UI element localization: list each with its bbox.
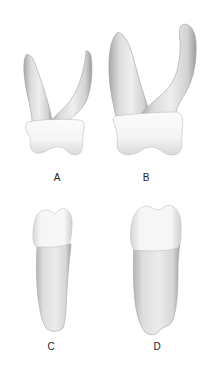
panel-label-a: A bbox=[54, 173, 61, 183]
tooth-d bbox=[130, 205, 181, 335]
tooth-illustration-figure: A B C D bbox=[0, 0, 209, 365]
panel-label-c: C bbox=[47, 342, 54, 352]
panel-label-d: D bbox=[153, 342, 160, 352]
tooth-b bbox=[109, 24, 196, 155]
tooth-c bbox=[33, 208, 72, 331]
panel-label-b: B bbox=[143, 173, 150, 183]
teeth-drawing bbox=[0, 0, 209, 365]
tooth-a bbox=[24, 51, 92, 155]
